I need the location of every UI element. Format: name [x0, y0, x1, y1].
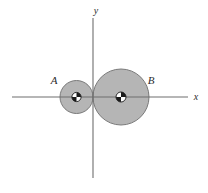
- disk-a-center-of-mass-icon: [72, 92, 81, 101]
- diagram-canvas: A B x y: [0, 0, 208, 193]
- disk-b-label: B: [148, 74, 155, 86]
- disk-b-center-of-mass-icon: [116, 92, 126, 102]
- figure-container: A B x y: [0, 0, 208, 193]
- disk-a-label: A: [50, 74, 58, 86]
- y-axis-label: y: [93, 5, 99, 16]
- x-axis-label: x: [193, 91, 199, 102]
